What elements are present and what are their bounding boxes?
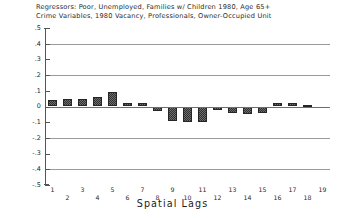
x-tick-label: 3 — [76, 187, 90, 193]
bar — [78, 99, 87, 107]
chart-title-line-2: Crime Variables, 1980 Vacancy, Professio… — [36, 12, 336, 21]
y-tick-label: .1 — [35, 88, 41, 94]
x-tick-label: 19 — [316, 187, 330, 193]
y-tick-mark — [45, 107, 50, 108]
y-tick-label: -.2 — [32, 135, 41, 141]
y-tick-mark — [45, 91, 50, 92]
x-tick-label: 11 — [196, 187, 210, 193]
x-tick-label: 13 — [226, 187, 240, 193]
x-axis-title: Spatial Lags — [0, 198, 345, 209]
y-tick-label: .5 — [35, 25, 41, 31]
bar — [183, 107, 192, 123]
y-tick-label: .2 — [35, 72, 41, 78]
x-tick-label: 1 — [46, 187, 60, 193]
x-tick-label: 7 — [136, 187, 150, 193]
y-tick-label: -.5 — [32, 182, 41, 188]
chart-title-line-1: Regressors: Poor, Unemployed, Families w… — [36, 3, 336, 12]
y-tick-mark — [45, 28, 50, 29]
y-tick-mark — [45, 154, 50, 155]
bar — [243, 107, 252, 115]
bar — [63, 99, 72, 107]
bar — [108, 92, 117, 106]
bar — [93, 97, 102, 106]
zero-baseline — [45, 107, 330, 108]
x-tick-label: 9 — [166, 187, 180, 193]
y-tick-label: .4 — [35, 41, 41, 47]
y-tick-mark — [45, 75, 50, 76]
gridline — [45, 169, 330, 170]
y-tick-mark — [45, 122, 50, 123]
y-tick-label: -.4 — [32, 166, 41, 172]
x-tick-label: 5 — [106, 187, 120, 193]
y-tick-mark — [45, 44, 50, 45]
bar — [168, 107, 177, 121]
y-tick-mark — [45, 169, 50, 170]
chart-title: Regressors: Poor, Unemployed, Families w… — [36, 3, 336, 20]
plot-area — [45, 28, 330, 185]
x-tick-label: 15 — [256, 187, 270, 193]
y-tick-label: .3 — [35, 56, 41, 62]
spatial-lags-bar-chart: Regressors: Poor, Unemployed, Families w… — [0, 0, 345, 218]
gridline — [45, 75, 330, 76]
gridline — [45, 138, 330, 139]
y-axis-tick-labels: .5.4.3.2.10-.1-.2-.3-.4-.5 — [20, 28, 41, 185]
y-tick-label: -.1 — [32, 119, 41, 125]
bar — [198, 107, 207, 123]
y-tick-label: 0 — [37, 103, 41, 109]
x-tick-label: 17 — [286, 187, 300, 193]
y-tick-mark — [45, 138, 50, 139]
y-tick-label: -.3 — [32, 150, 41, 156]
y-tick-mark — [45, 185, 50, 186]
y-tick-mark — [45, 59, 50, 60]
gridline — [45, 44, 330, 45]
